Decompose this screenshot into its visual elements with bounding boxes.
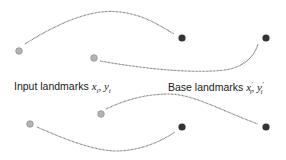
math-y-sub: i [109, 87, 111, 95]
math-y-prime: ′ [262, 80, 264, 88]
base-label-math: x′i, y′i [246, 81, 262, 93]
input-landmarks-label: Input landmarks xi, yi [14, 80, 111, 95]
input-landmark-dot [16, 48, 23, 55]
input-label-math: xi, yi [92, 80, 111, 92]
input-label-text: Input landmarks [14, 80, 92, 92]
input-landmark-dot [91, 55, 98, 62]
base-landmark-dot [262, 123, 269, 130]
base-label-text: Base landmarks [168, 81, 246, 93]
curve-input4-base4 [106, 94, 258, 124]
input-landmark-dot [27, 121, 34, 128]
base-landmark-dot [178, 34, 185, 41]
base-landmark-dot [178, 123, 185, 130]
base-landmarks-label: Base landmarks x′i, y′i [168, 80, 262, 96]
curve-input3-base3 [37, 127, 175, 151]
curve-input1-base1 [25, 11, 174, 44]
curve-input2-base2 [100, 44, 258, 71]
input-landmark-dot [98, 111, 105, 118]
base-landmark-dot [262, 34, 269, 41]
math-y-sub: i [261, 88, 263, 96]
